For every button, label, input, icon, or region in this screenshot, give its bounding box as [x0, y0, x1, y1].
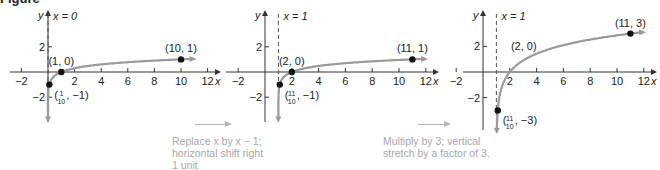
x-tick-label: −2 [450, 75, 463, 87]
caption-2-line-1: Multiply by 3; vertical [383, 135, 533, 147]
curve-arrow-down-icon [45, 116, 51, 122]
y-tick-label: 2 [256, 41, 262, 53]
point-label-denominator: 10 [57, 98, 65, 105]
point-label-rest: , −3) [515, 114, 537, 126]
x-axis-label: x [432, 75, 439, 87]
point-label: (11, 1) [397, 42, 428, 54]
x-tick-label: −2 [15, 75, 28, 87]
point-label: (2, 0) [511, 40, 537, 52]
x-tick-label: 8 [369, 75, 375, 87]
y-axis-arrow-icon [262, 10, 268, 16]
x-tick-label: 12 [638, 75, 650, 87]
curve-arrow-down-icon [494, 128, 500, 134]
caption-2-line-2: stretch by a factor of 3. [383, 147, 533, 159]
point-label-rest: , −1) [66, 89, 88, 101]
point-label-denominator: 10 [506, 123, 514, 130]
curve-arrow-icon [421, 56, 428, 62]
y-axis-label: y [254, 9, 262, 21]
data-point [289, 69, 295, 75]
transform-arrow-1 [195, 124, 231, 125]
curve-arrow-icon [639, 29, 646, 35]
y-tick-label: −2 [249, 91, 262, 103]
data-point [46, 81, 52, 87]
data-point [409, 56, 415, 62]
x-tick-label: −2 [232, 75, 245, 87]
y-tick-label: −2 [32, 91, 45, 103]
point-label-numerator: 11 [506, 115, 513, 122]
graph-1: xy−2246810122−2x = 0(110, −1)(1, 0)(10, … [10, 9, 221, 122]
x-tick-label: 4 [534, 75, 540, 87]
point-label-numerator: 1 [59, 90, 63, 97]
x-tick-label: 4 [316, 75, 322, 87]
x-tick-label: 4 [98, 75, 104, 87]
x-tick-label: 8 [151, 75, 157, 87]
caption-1-line-2: horizontal shift right [172, 147, 302, 159]
point-label-rest: , −1) [297, 89, 319, 101]
x-tick-label: 6 [342, 75, 348, 87]
caption-1-line-3: 1 unit [172, 159, 302, 170]
x-tick-label: 10 [175, 75, 187, 87]
x-tick-label: 6 [560, 75, 566, 87]
curve-arrow-down-icon [275, 116, 281, 122]
y-tick-label: −2 [467, 92, 480, 104]
x-tick-label: 12 [420, 75, 432, 87]
x-tick-label: 2 [72, 75, 78, 87]
x-axis-label: x [214, 75, 221, 87]
x-tick-label: 2 [289, 75, 295, 87]
transform-arrow-2 [418, 124, 450, 125]
x-axis-label: x [650, 75, 657, 87]
y-tick-label: 2 [39, 41, 45, 53]
x-tick-label: 6 [125, 75, 131, 87]
caption-2: Multiply by 3; vertical stretch by a fac… [383, 135, 533, 159]
y-axis-label: y [472, 9, 480, 21]
data-point [495, 107, 501, 113]
curve-arrow-icon [190, 56, 197, 62]
y-axis-arrow-icon [480, 10, 486, 16]
x-tick-label: 10 [611, 75, 623, 87]
x-tick-label: 8 [587, 75, 593, 87]
x-tick-label: 10 [393, 75, 405, 87]
caption-1-line-1: Replace x by x − 1; [172, 135, 302, 147]
y-tick-label: 2 [474, 40, 480, 52]
graph-3: xy−2246810122−2x = 1(1110, −3)(2, 0)(11,… [450, 9, 657, 134]
point-label: (2, 0) [279, 55, 305, 67]
data-point [58, 69, 64, 75]
data-point [277, 81, 283, 87]
asymptote-label: x = 1 [500, 10, 525, 22]
caption-1: Replace x by x − 1; horizontal shift rig… [172, 135, 302, 170]
x-tick-label: 12 [201, 75, 213, 87]
point-label: (1, 0) [48, 55, 74, 67]
y-axis-label: y [37, 9, 45, 21]
asymptote-label: x = 1 [282, 10, 307, 22]
data-point [627, 30, 633, 36]
point-label-numerator: 11 [288, 90, 295, 97]
point-label: (10, 1) [165, 42, 197, 54]
graph-2: xy−2246810122−2x = 1(1110, −1)(2, 0)(11,… [226, 9, 439, 122]
data-point [178, 56, 184, 62]
figure: Figure xy−2246810122−2x = 0(110, −1)(1, … [0, 0, 660, 170]
point-label-denominator: 10 [288, 98, 296, 105]
point-label: (11, 3) [615, 17, 646, 29]
graphs-canvas: xy−2246810122−2x = 0(110, −1)(1, 0)(10, … [0, 0, 660, 170]
asymptote-label: x = 0 [52, 10, 78, 22]
